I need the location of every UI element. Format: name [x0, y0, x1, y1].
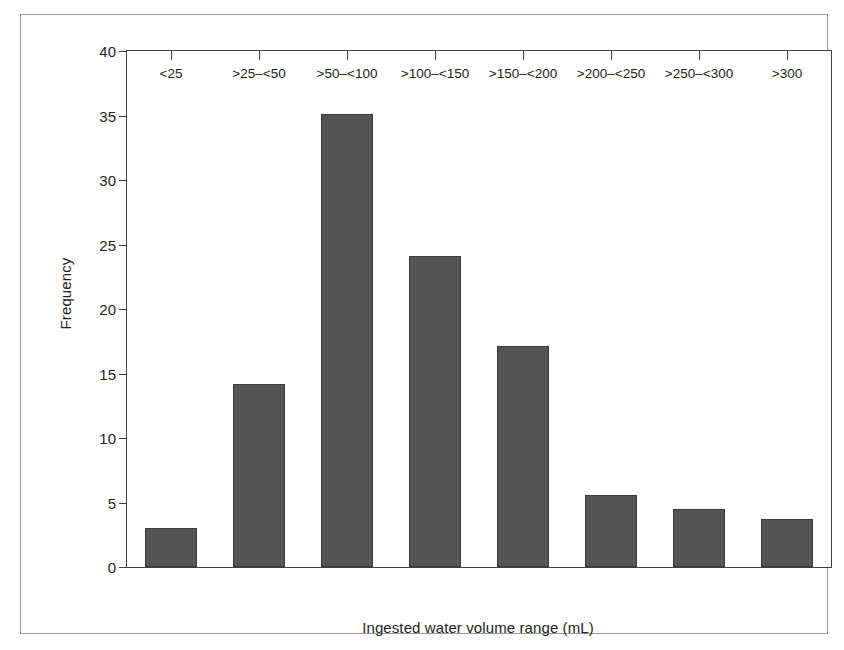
y-tick-mark	[119, 438, 127, 439]
x-tick-mark	[787, 51, 788, 60]
y-axis-title: Frequency	[57, 234, 74, 354]
y-tick-mark	[119, 309, 127, 310]
x-axis-title: Ingested water volume range (mL)	[126, 619, 830, 636]
figure-canvas: Frequency 0510152025303540 <25>25–<50>50…	[0, 0, 844, 650]
y-tick-label: 25	[99, 237, 116, 252]
x-tick-mark	[259, 51, 260, 60]
bar	[233, 384, 284, 567]
x-tick-label: <25	[160, 67, 183, 81]
x-tick-label: >25–<50	[232, 67, 285, 81]
x-tick-mark	[611, 51, 612, 60]
y-tick-mark	[119, 51, 127, 52]
x-tick-mark	[347, 51, 348, 60]
y-tick-label: 0	[108, 560, 116, 575]
x-tick-label: >300	[772, 67, 802, 81]
y-tick-mark	[119, 116, 127, 117]
bar	[497, 346, 548, 567]
y-tick-mark	[119, 503, 127, 504]
bar	[321, 114, 372, 567]
figure-frame: Frequency 0510152025303540 <25>25–<50>50…	[20, 14, 828, 634]
y-tick-label: 20	[99, 302, 116, 317]
x-tick-label: >100–<150	[401, 67, 469, 81]
y-tick-label: 15	[99, 366, 116, 381]
x-tick-mark	[699, 51, 700, 60]
x-tick-mark	[523, 51, 524, 60]
bar	[761, 519, 812, 567]
y-tick-label: 35	[99, 108, 116, 123]
x-tick-label: >50–<100	[317, 67, 378, 81]
bar	[673, 509, 724, 567]
bar	[409, 256, 460, 567]
y-tick-mark	[119, 374, 127, 375]
y-tick-label: 10	[99, 431, 116, 446]
x-tick-label: >150–<200	[489, 67, 557, 81]
y-tick-label: 5	[108, 495, 116, 510]
plot-area: 0510152025303540 <25>25–<50>50–<100>100–…	[126, 50, 832, 568]
x-tick-label: >250–<300	[665, 67, 733, 81]
y-tick-mark	[119, 180, 127, 181]
x-tick-mark	[435, 51, 436, 60]
x-tick-mark	[171, 51, 172, 60]
bar	[585, 495, 636, 567]
x-tick-label: >200–<250	[577, 67, 645, 81]
y-tick-mark	[119, 567, 127, 568]
y-tick-label: 30	[99, 173, 116, 188]
y-tick-label: 40	[99, 44, 116, 59]
y-tick-mark	[119, 245, 127, 246]
bar	[145, 528, 196, 567]
